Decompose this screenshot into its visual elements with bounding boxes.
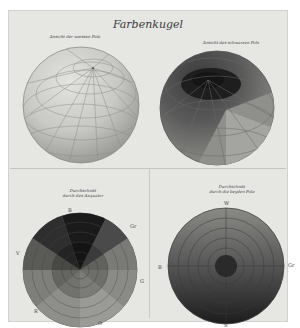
label-right: G — [140, 278, 144, 284]
label-right: Gr — [288, 262, 294, 268]
label-left: V — [16, 250, 20, 256]
equator-section-disc — [20, 210, 140, 328]
caption-poles-section: Durchschnitt durch die beyden Pole — [192, 184, 272, 194]
label-bottom: S — [224, 322, 227, 328]
black-pole-sphere — [156, 50, 278, 168]
caption-line: durch die beyden Pole — [192, 189, 272, 194]
label-left: B — [158, 264, 162, 270]
label-top: B — [68, 207, 72, 213]
label-upper-right: Gr — [130, 223, 136, 229]
label-bottom: O — [98, 320, 102, 326]
caption-equator-section: Durchschnitt durch den Aequator — [48, 188, 118, 198]
color-sphere-plate: Farbenkugel Ansicht der weissen Pole Ans… — [8, 10, 288, 322]
poles-section-disc — [166, 206, 286, 326]
label-lower-left: R — [34, 308, 38, 314]
white-pole-sphere — [20, 44, 142, 166]
vertical-divider — [149, 168, 150, 318]
label-top: W — [224, 200, 229, 206]
caption-black-pole: Ansicht des schwarzen Pols — [186, 40, 276, 45]
caption-white-pole: Ansicht der weissen Pole — [30, 34, 120, 39]
caption-line: durch den Aequator — [48, 193, 118, 198]
plate-title: Farbenkugel — [8, 18, 288, 31]
horizontal-divider — [10, 168, 286, 169]
